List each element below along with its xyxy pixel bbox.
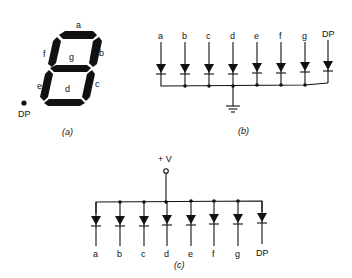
diode-c-a	[91, 202, 101, 246]
output-label-g: g	[235, 249, 240, 259]
label-b: b	[99, 48, 104, 58]
output-label-d: d	[164, 249, 169, 259]
input-label-g: g	[302, 31, 307, 41]
diode-c-dp	[257, 201, 267, 244]
segment-g	[50, 65, 91, 72]
label-c: c	[95, 79, 100, 89]
label-e: e	[37, 81, 42, 91]
diode-b-d	[228, 42, 238, 106]
label-dp: DP	[18, 109, 31, 119]
caption-a: (a)	[62, 127, 73, 137]
output-label-c: c	[141, 249, 146, 259]
diode-c-e	[186, 201, 196, 246]
input-label-d: d	[230, 31, 235, 41]
diode-c-d	[162, 202, 172, 246]
common-cathode-circuit: a b c d e f g DP	[156, 29, 335, 136]
input-label-a: a	[158, 31, 163, 41]
input-label-f: f	[279, 31, 282, 41]
segment-f	[48, 37, 61, 67]
label-f: f	[43, 49, 46, 59]
label-g: g	[69, 52, 74, 62]
label-d: d	[65, 84, 70, 94]
diode-b-c	[204, 42, 214, 85]
output-label-e: e	[188, 249, 193, 259]
diode-b-b	[180, 42, 190, 85]
diode-c-b	[115, 202, 125, 246]
input-label-e: e	[254, 31, 259, 41]
diode-c-f	[209, 201, 219, 246]
input-label-c: c	[206, 31, 211, 41]
common-anode-circuit: + V	[91, 154, 269, 270]
input-label-b: b	[182, 31, 187, 41]
segment-a	[59, 31, 97, 39]
output-label-b: b	[117, 249, 122, 259]
caption-c: (c)	[174, 260, 185, 270]
caption-b: (b)	[238, 126, 249, 136]
ground-icon	[226, 106, 240, 112]
segment-c	[82, 70, 95, 101]
output-label-f: f	[212, 249, 215, 259]
diode-b-a	[156, 42, 166, 85]
diode-c-g	[233, 201, 243, 246]
seven-segment-display: a b c d e f g DP (a)	[18, 20, 104, 137]
diode-b-dp	[323, 40, 333, 83]
diode-c-c	[139, 202, 149, 246]
supply-terminal	[164, 169, 169, 174]
decimal-point	[21, 100, 26, 105]
diode-b-g	[300, 42, 310, 85]
output-label-a: a	[93, 249, 98, 259]
label-a: a	[76, 20, 81, 30]
seven-segment-diagram: a b c d e f g DP (a) a b c d e f g DP	[0, 0, 352, 278]
input-label-dp: DP	[322, 29, 335, 39]
output-label-dp: DP	[256, 248, 269, 258]
supply-label: + V	[158, 154, 172, 164]
diode-b-e	[252, 42, 262, 85]
segment-d	[44, 99, 85, 106]
diode-b-f	[276, 42, 286, 85]
